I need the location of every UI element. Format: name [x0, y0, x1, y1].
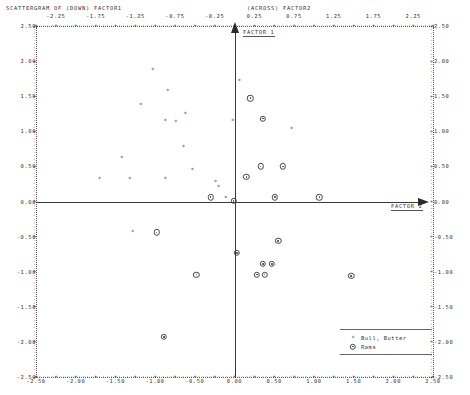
tick-mark: · — [209, 374, 212, 379]
tick-label: -0.50 — [434, 234, 453, 240]
data-point-circle — [193, 271, 199, 277]
tick-mark: · — [102, 374, 105, 379]
tick-mark: · — [102, 23, 105, 28]
tick-mark: · — [209, 23, 212, 28]
tick-mark: · — [408, 374, 411, 379]
data-point-star — [164, 177, 168, 181]
data-point-circle — [153, 229, 159, 235]
tick-mark: · — [225, 374, 228, 379]
tick-mark: · — [277, 23, 280, 28]
tick-mark: · — [225, 23, 228, 28]
tick-mark: · — [241, 23, 244, 28]
tick-mark: · — [301, 23, 304, 28]
tick-label: -2.00 — [434, 339, 453, 345]
tick-mark: · — [320, 23, 323, 28]
data-point-circle — [257, 163, 263, 169]
data-point-star — [224, 196, 228, 200]
tick-mark: · — [388, 23, 391, 28]
tick-mark: · — [404, 23, 407, 28]
data-point-star — [182, 145, 186, 149]
tick-mark: + — [293, 374, 296, 379]
tick-mark: · — [320, 374, 323, 379]
legend-item: Bull, Butter — [340, 333, 432, 342]
tick-mark: · — [301, 374, 304, 379]
tick-mark: · — [348, 374, 351, 379]
data-point-star — [151, 68, 155, 72]
data-point-star — [139, 103, 143, 107]
tick-mark: · — [70, 374, 73, 379]
data-point-star — [131, 230, 135, 234]
tick-mark: · — [39, 23, 42, 28]
tick-mark: + — [54, 374, 57, 379]
tick-mark: · — [201, 23, 204, 28]
tick-mark: + — [392, 374, 395, 379]
tick-mark: + — [54, 23, 57, 28]
data-point-star — [183, 112, 187, 116]
data-point-star — [231, 119, 235, 123]
tick-mark: · — [162, 23, 165, 28]
tick-mark: · — [356, 23, 359, 28]
tick-mark: + — [332, 374, 335, 379]
tick-mark: · — [360, 23, 363, 28]
tick-mark: · — [62, 23, 65, 28]
tick-mark: + — [174, 374, 177, 379]
tick-mark: · — [110, 374, 113, 379]
tick-mark: · — [368, 23, 371, 28]
tick-mark: · — [50, 23, 53, 28]
tick-mark: · — [356, 374, 359, 379]
tick-mark: + — [273, 374, 276, 379]
tick-mark: · — [138, 374, 141, 379]
tick-mark: · — [185, 23, 188, 28]
tick-mark: · — [348, 23, 351, 28]
tick-label: 2.00 — [434, 58, 449, 64]
tick-mark: · — [340, 23, 343, 28]
tick-mark: + — [352, 374, 355, 379]
data-point-circle — [207, 194, 213, 200]
data-point-circle — [280, 163, 286, 169]
tick-mark: · — [277, 374, 280, 379]
tick-label: 1.00 — [434, 128, 449, 134]
tick-mark: · — [285, 23, 288, 28]
tick-mark: · — [82, 23, 85, 28]
tick-mark: · — [217, 23, 220, 28]
tick-mark: · — [70, 23, 73, 28]
tick-label: 1.50 — [434, 93, 449, 99]
data-point-circle — [260, 261, 266, 267]
tick-mark: · — [118, 374, 121, 379]
tick-mark: · — [281, 374, 284, 379]
tick-mark: · — [289, 23, 292, 28]
tick-mark: · — [261, 23, 264, 28]
tick-mark: · — [309, 23, 312, 28]
tick-mark: + — [213, 23, 216, 28]
data-point-star — [128, 177, 132, 181]
tick-label: -0.75 — [165, 13, 184, 19]
tick-mark: · — [189, 374, 192, 379]
tick-mark: · — [237, 374, 240, 379]
tick-mark: · — [58, 23, 61, 28]
data-point-star — [217, 185, 221, 189]
tick-mark: + — [174, 23, 177, 28]
tick-mark: · — [316, 374, 319, 379]
tick-mark: · — [197, 23, 200, 28]
tick-mark: · — [78, 374, 81, 379]
tick-mark: · — [142, 23, 145, 28]
tick-mark: · — [396, 374, 399, 379]
tick-mark: · — [416, 374, 419, 379]
tick-mark: · — [297, 23, 300, 28]
tick-label: 0.25 — [247, 13, 262, 19]
tick-mark: · — [384, 23, 387, 28]
tick-mark: + — [94, 374, 97, 379]
tick-mark: · — [185, 374, 188, 379]
left-axis-tick-labels: 2.502.001.501.000.500.00-0.50-1.00-1.50-… — [4, 0, 36, 395]
data-point-circle — [316, 194, 322, 200]
tick-mark: · — [384, 374, 387, 379]
tick-mark: · — [86, 374, 89, 379]
tick-mark: · — [58, 374, 61, 379]
tick-mark: · — [181, 23, 184, 28]
tick-mark: · — [122, 23, 125, 28]
tick-mark: · — [221, 23, 224, 28]
chart-title-right: (ACROSS) FACTOR2 — [247, 5, 311, 11]
tick-mark: · — [178, 23, 181, 28]
tick-mark: · — [166, 23, 169, 28]
tick-mark: · — [82, 374, 85, 379]
